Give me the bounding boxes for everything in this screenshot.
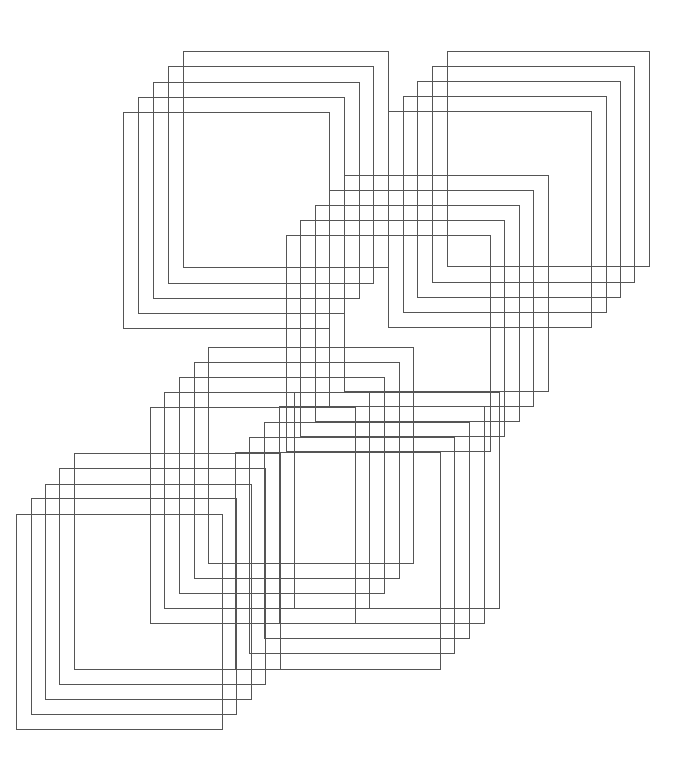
bottom-left-group — [17, 454, 281, 730]
square-outline — [151, 408, 356, 624]
square-outline — [169, 67, 374, 284]
square-outline — [124, 113, 330, 329]
square-outline — [154, 83, 360, 299]
drawing-canvas — [0, 0, 693, 764]
square-outline — [60, 469, 266, 685]
square-outline — [165, 393, 370, 609]
square-outline — [236, 453, 441, 670]
square-outline — [139, 98, 345, 314]
square-outline — [295, 393, 500, 609]
square-outline — [17, 515, 223, 730]
overlapping-squares-diagram — [0, 0, 693, 764]
square-outline — [330, 191, 534, 407]
lower-right-group — [236, 393, 500, 670]
square-outline — [195, 363, 400, 579]
square-outline — [46, 485, 252, 700]
square-outline — [265, 423, 470, 639]
square-outline — [301, 221, 505, 437]
square-outline — [280, 407, 485, 624]
square-outline — [345, 176, 549, 392]
square-outline — [209, 348, 414, 564]
lower-middle-group — [151, 348, 414, 624]
square-outline — [180, 378, 385, 594]
square-outline — [32, 499, 237, 715]
